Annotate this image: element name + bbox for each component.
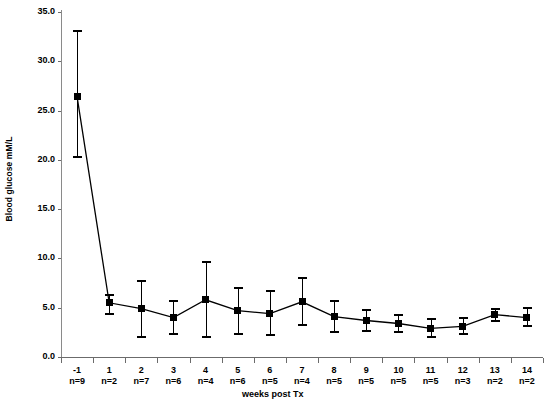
error-bar-cap: [105, 313, 114, 315]
error-bar-cap: [266, 334, 275, 336]
data-point-marker: [106, 299, 113, 306]
error-bar-cap: [459, 333, 468, 335]
data-point-marker: [331, 313, 338, 320]
error-bar-cap: [491, 320, 500, 322]
error-bar-cap: [202, 336, 211, 338]
data-point-marker: [74, 93, 81, 100]
data-point-marker: [491, 311, 498, 318]
error-bar-cap: [298, 324, 307, 326]
error-bar-cap: [234, 287, 243, 289]
error-bar-cap: [73, 30, 82, 32]
chart-canvas: Blood glucose mM/L 35.030.025.020.015.01…: [0, 0, 550, 409]
error-bar-cap: [266, 290, 275, 292]
error-bar-cap: [73, 156, 82, 158]
data-point-marker: [459, 323, 466, 330]
error-bar-cap: [427, 336, 436, 338]
data-point-marker: [138, 305, 145, 312]
x-axis-title: weeks post Tx: [242, 389, 304, 399]
error-bar-cap: [169, 300, 178, 302]
error-bar-cap: [394, 314, 403, 316]
error-bar-cap: [362, 309, 371, 311]
error-bar-cap: [137, 336, 146, 338]
error-bar-cap: [202, 261, 211, 263]
error-bar-cap: [362, 330, 371, 332]
error-bar-cap: [105, 294, 114, 296]
data-point-marker: [427, 325, 434, 332]
data-point-marker: [523, 314, 530, 321]
series-line: [0, 0, 550, 409]
error-bar-cap: [523, 307, 532, 309]
error-bar-cap: [394, 331, 403, 333]
data-point-marker: [266, 310, 273, 317]
error-bar-cap: [169, 333, 178, 335]
error-bar-cap: [459, 317, 468, 319]
error-bar-cap: [234, 333, 243, 335]
data-point-marker: [202, 296, 209, 303]
error-bar-cap: [330, 300, 339, 302]
data-point-marker: [234, 307, 241, 314]
error-bar-cap: [523, 325, 532, 327]
error-bar-cap: [491, 308, 500, 310]
data-point-marker: [363, 317, 370, 324]
error-bar-cap: [298, 277, 307, 279]
data-point-marker: [170, 314, 177, 321]
error-bar-cap: [330, 331, 339, 333]
data-point-marker: [395, 320, 402, 327]
data-point-marker: [299, 298, 306, 305]
error-bar-cap: [137, 280, 146, 282]
error-bar-cap: [427, 318, 436, 320]
